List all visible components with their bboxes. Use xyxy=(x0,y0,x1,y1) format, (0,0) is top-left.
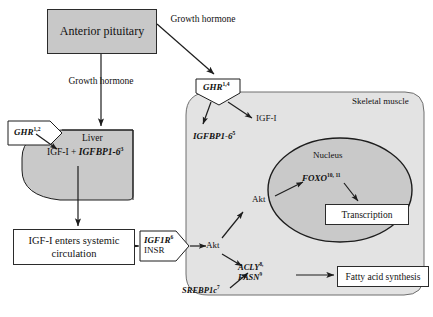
skeletal-muscle-label: Skeletal muscle xyxy=(352,96,409,106)
igf1r-label: IGF1R6 xyxy=(144,234,173,245)
igf1-muscle-label: IGF-I xyxy=(256,113,277,123)
systemic-circulation-box: IGF-I enters systemic circulation xyxy=(13,229,135,265)
growth-hormone-label-left: Growth hormone xyxy=(66,76,136,87)
ghr-liver-text: GHR xyxy=(14,127,34,137)
ghr-liver-label: GHR1,2 xyxy=(14,126,41,137)
acly-fasn-label: ACLY8, FASN9 xyxy=(238,262,263,283)
transcription-label: Transcription xyxy=(342,210,393,220)
foxo-text: FOXO xyxy=(302,173,327,183)
ghr-liver-superscript: 1,2 xyxy=(34,126,41,132)
growth-hormone-label-right: Growth hormone xyxy=(168,14,238,25)
systemic-circulation-label: IGF-I enters systemic circulation xyxy=(14,234,134,260)
fasn-text: FASN xyxy=(238,272,259,282)
igf1-plain-text: IGF-I + xyxy=(47,147,79,157)
srebp1c-superscript: 7 xyxy=(217,284,220,290)
igfbp-muscle-superscript: 5 xyxy=(233,130,236,136)
nucleus-label: Nucleus xyxy=(313,150,343,160)
fasn-superscript: 9 xyxy=(259,271,262,277)
arrow-pituitary-to-muscle-ghr xyxy=(157,24,214,74)
anterior-pituitary-label: Anterior pituitary xyxy=(60,24,144,39)
acly-text: ACLY xyxy=(238,262,259,272)
igfbp-muscle-text: IGFBP1-6 xyxy=(193,131,233,141)
igf1r-insr-label: IGF1R6 INSR xyxy=(144,234,173,255)
foxo-label: FOXO10, 11 xyxy=(302,172,341,183)
fatty-acid-synthesis-label: Fatty acid synthesis xyxy=(346,272,421,282)
igfbp-liver-text: IGFBP1-6 xyxy=(79,147,121,157)
ghr-muscle-text: GHR xyxy=(203,82,223,92)
liver-product-label: IGF-I + IGFBP1-63 xyxy=(47,146,123,158)
igf1r-superscript: 6 xyxy=(171,234,174,240)
liver-label: Liver xyxy=(82,133,103,144)
ghr-muscle-label: GHR1,4 xyxy=(203,81,230,92)
srebp1c-label: SREBP1c7 xyxy=(182,285,220,295)
insr-label: INSR xyxy=(144,245,173,255)
fatty-acid-synthesis-box: Fatty acid synthesis xyxy=(337,266,429,287)
igfbp-liver-superscript: 3 xyxy=(120,146,123,152)
srebp1c-text: SREBP1c xyxy=(182,285,217,295)
anterior-pituitary-box: Anterior pituitary xyxy=(47,9,157,54)
akt-upper-label: Akt xyxy=(252,194,266,204)
ghr-muscle-superscript: 1,4 xyxy=(223,81,230,87)
igfbp-muscle-label: IGFBP1-65 xyxy=(193,130,235,141)
fasn-label: FASN9 xyxy=(238,272,263,282)
igf1r-text: IGF1R xyxy=(144,235,171,245)
pathway-diagram: Anterior pituitary Growth hormone Growth… xyxy=(0,0,433,317)
transcription-box: Transcription xyxy=(325,204,409,225)
acly-superscript: 8, xyxy=(259,261,263,267)
akt-lower-label: Akt xyxy=(206,240,220,250)
foxo-superscript: 10, 11 xyxy=(327,172,341,178)
